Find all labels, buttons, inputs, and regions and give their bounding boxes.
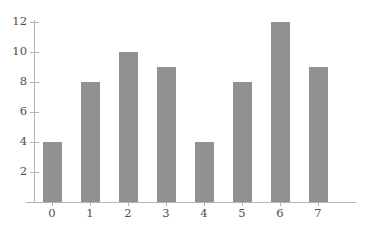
bar [119, 52, 138, 202]
x-axis-tick-label: 5 [227, 208, 257, 220]
y-axis-tick [30, 82, 39, 83]
y-axis-tick-label: 10 [0, 46, 27, 58]
bar [157, 67, 176, 202]
bar [195, 142, 214, 202]
x-axis-line [26, 202, 356, 203]
bar [81, 82, 100, 202]
y-axis-tick [30, 52, 39, 53]
plot-area: 24681012 01234567 [0, 0, 367, 232]
y-axis-tick-label: 6 [0, 106, 27, 118]
bar [271, 22, 290, 202]
x-axis-tick-label: 0 [37, 208, 67, 220]
bar-chart-figure: 24681012 01234567 [0, 0, 367, 232]
y-axis-tick [30, 112, 39, 113]
x-axis-tick-label: 3 [151, 208, 181, 220]
y-axis-tick-label: 12 [0, 16, 27, 28]
y-axis-tick [30, 22, 39, 23]
x-axis-tick-label: 1 [75, 208, 105, 220]
y-axis-tick [30, 172, 39, 173]
bar [309, 67, 328, 202]
x-axis-tick-label: 7 [303, 208, 333, 220]
y-axis-tick-label: 4 [0, 136, 27, 148]
x-axis-tick-label: 4 [189, 208, 219, 220]
y-axis-tick-label: 8 [0, 76, 27, 88]
bar [233, 82, 252, 202]
x-axis-tick-label: 2 [113, 208, 143, 220]
bar [43, 142, 62, 202]
y-axis-tick-label: 2 [0, 166, 27, 178]
x-axis-tick-label: 6 [265, 208, 295, 220]
y-axis-tick [30, 142, 39, 143]
